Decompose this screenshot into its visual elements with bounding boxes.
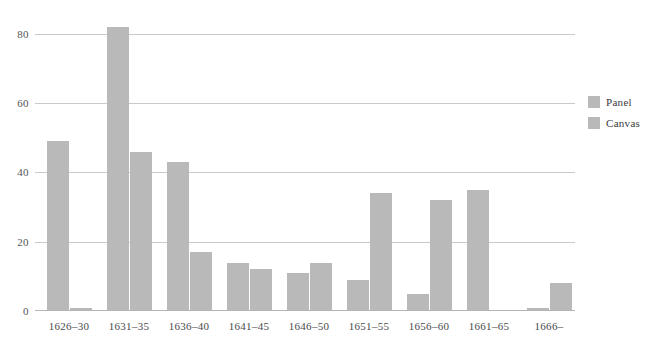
bar-panel[interactable] (47, 141, 69, 311)
y-axis: 020406080 (0, 20, 29, 311)
bar-group (407, 20, 452, 311)
bar-group (107, 20, 152, 311)
y-tick-label: 60 (3, 97, 29, 109)
legend-swatch-icon (588, 117, 600, 129)
plot-area (35, 20, 575, 311)
bar-panel[interactable] (287, 273, 309, 311)
bar-group (467, 20, 512, 311)
legend-item-canvas[interactable]: Canvas (588, 112, 652, 133)
bar-panel[interactable] (227, 263, 249, 312)
legend-item-panel[interactable]: Panel (588, 91, 652, 112)
x-tick-label: 1651–55 (349, 320, 390, 332)
chart-legend: PanelCanvas (588, 91, 652, 133)
bar-group (47, 20, 92, 311)
bar-group (287, 20, 332, 311)
legend-swatch-icon (588, 96, 600, 108)
bar-panel[interactable] (347, 280, 369, 311)
bar-canvas[interactable] (250, 269, 272, 311)
x-tick-label: 1666– (535, 320, 564, 332)
x-tick-label: 1641–45 (229, 320, 270, 332)
bar-chart: 020406080 1626–301631–351636–401641–4516… (0, 0, 655, 344)
bar-group (347, 20, 392, 311)
x-tick-label: 1661–65 (469, 320, 510, 332)
x-axis: 1626–301631–351636–401641–451646–501651–… (35, 316, 575, 340)
bar-canvas[interactable] (430, 200, 452, 311)
bar-canvas[interactable] (190, 252, 212, 311)
y-tick-label: 0 (3, 305, 29, 317)
bar-panel[interactable] (107, 27, 129, 311)
legend-label: Panel (606, 96, 632, 108)
y-tick-label: 40 (3, 166, 29, 178)
bar-group (227, 20, 272, 311)
x-axis-baseline (35, 310, 575, 311)
x-tick-label: 1656–60 (409, 320, 450, 332)
y-tick-label: 80 (3, 28, 29, 40)
bar-panel[interactable] (407, 294, 429, 311)
legend-label: Canvas (606, 117, 640, 129)
bar-group (527, 20, 572, 311)
bar-canvas[interactable] (370, 193, 392, 311)
y-tick-label: 20 (3, 236, 29, 248)
bar-canvas[interactable] (310, 263, 332, 312)
bar-group (167, 20, 212, 311)
bar-panel[interactable] (167, 162, 189, 311)
x-tick-label: 1626–30 (49, 320, 90, 332)
x-tick-label: 1631–35 (109, 320, 150, 332)
bar-canvas[interactable] (550, 283, 572, 311)
x-tick-label: 1636–40 (169, 320, 210, 332)
bar-panel[interactable] (467, 190, 489, 311)
bar-canvas[interactable] (130, 152, 152, 311)
x-tick-label: 1646–50 (289, 320, 330, 332)
